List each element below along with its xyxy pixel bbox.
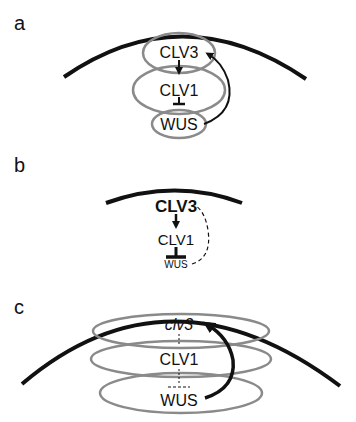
panel-b: CLV3 CLV1 WUS — [106, 191, 242, 271]
feedback-arrow-icon — [205, 325, 233, 398]
node-clv3: CLV3 — [160, 44, 199, 61]
figure: a b c CLV3 CLV1 WUS CL — [0, 0, 356, 422]
panel-a: CLV3 CLV1 WUS — [64, 33, 306, 138]
node-wus: WUS — [160, 392, 197, 409]
node-clv1: CLV1 — [158, 231, 194, 248]
node-clv1: CLV1 — [160, 82, 199, 99]
panel-c: clv3 CLV1 WUS — [22, 314, 340, 413]
node-clv1: CLV1 — [160, 351, 199, 368]
node-wus: WUS — [164, 259, 188, 270]
diagram-canvas: CLV3 CLV1 WUS CLV3 CLV1 WUS clv3 — [0, 0, 356, 422]
node-wus: WUS — [160, 116, 197, 133]
node-clv3: CLV3 — [155, 197, 197, 216]
node-clv3-mutant: clv3 — [165, 316, 194, 333]
